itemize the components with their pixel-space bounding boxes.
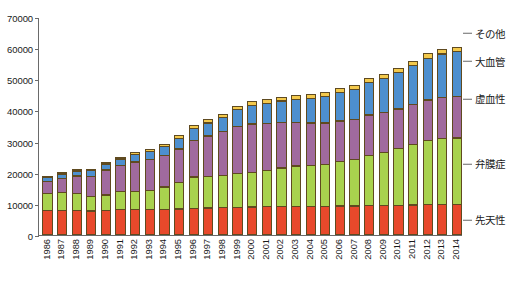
bar-segment [159, 155, 169, 187]
x-axis-tick-label: 2005 [320, 239, 329, 260]
bar-segment [174, 149, 184, 183]
bar-segment [276, 122, 286, 168]
bar-segment [291, 166, 301, 207]
y-axis-tick-mark [35, 49, 39, 50]
y-axis-tick-mark [35, 236, 39, 237]
bar-segment [320, 96, 330, 123]
x-axis-tick-label: 2014 [452, 239, 461, 260]
bar-stack [306, 94, 316, 235]
bar-segment [364, 205, 374, 235]
bar-segment [42, 193, 52, 211]
bar-stack [57, 172, 67, 235]
bar-segment [86, 176, 96, 197]
bar-stack [276, 97, 286, 235]
bar-segment [452, 96, 462, 138]
bar-segment [159, 209, 169, 235]
bar-segment [72, 176, 82, 194]
x-axis-tick-label: 1991 [116, 239, 125, 260]
x-axis-tick-label: 2007 [350, 239, 359, 260]
legend-label: 大血管 [475, 56, 505, 67]
bar-segment [335, 206, 345, 235]
x-axis-tick-label: 2002 [276, 239, 285, 260]
x-axis-tick-label: 1988 [72, 239, 81, 260]
bar-segment [101, 210, 111, 235]
y-axis-tick-mark [35, 18, 39, 19]
bar-segment [408, 104, 418, 145]
bar-segment [379, 152, 389, 206]
y-axis-tick-mark [35, 174, 39, 175]
bar-segment [115, 191, 125, 210]
bar-segment [437, 97, 447, 139]
bar-segment [335, 121, 345, 162]
x-axis-tick-label: 2003 [291, 239, 300, 260]
bar-stack [379, 74, 389, 235]
legend-item: その他 [463, 28, 505, 39]
bar-stack [145, 149, 155, 235]
bar-segment [276, 101, 286, 123]
bar-segment [232, 207, 242, 235]
legend-item: 虚血性 [463, 94, 505, 105]
bar-segment [115, 209, 125, 235]
bar-segment [379, 78, 389, 113]
bar-stack [232, 106, 242, 235]
legend-leader-line [463, 220, 472, 221]
bar-segment [306, 98, 316, 123]
x-axis-tick-label: 2004 [306, 239, 315, 260]
x-axis-tick-label: 2009 [379, 239, 388, 260]
bar-segment [262, 170, 272, 207]
bar-segment [218, 117, 228, 132]
bar-segment [393, 72, 403, 109]
bar-segment [291, 99, 301, 123]
x-axis-tick-label: 2010 [393, 239, 402, 260]
y-axis-tick-mark [35, 80, 39, 81]
bar-stack [423, 53, 433, 235]
bar-stack [72, 169, 82, 235]
bar-segment [247, 172, 257, 207]
bar-segment [364, 115, 374, 156]
bar-stack [86, 169, 96, 235]
bar-segment [349, 206, 359, 235]
bar-segment [57, 192, 67, 211]
bar-segment [174, 138, 184, 149]
bar-segment [393, 109, 403, 149]
bar-segment [437, 204, 447, 235]
x-axis-tick-label: 2013 [437, 239, 446, 260]
x-axis-tick-label: 1987 [57, 239, 66, 260]
x-axis-tick-label: 1996 [189, 239, 198, 260]
bar-stack [437, 49, 447, 235]
legend-leader-line [463, 33, 472, 34]
bar-segment [130, 162, 140, 192]
bar-segment [218, 207, 228, 235]
legend-item: 大血管 [463, 56, 505, 67]
bar-segment [203, 208, 213, 235]
x-axis-tick-label: 2011 [408, 239, 417, 259]
bar-segment [306, 206, 316, 235]
bar-segment [189, 128, 199, 140]
y-axis-tick-mark [35, 205, 39, 206]
bar-segment [291, 122, 301, 166]
bar-segment [452, 138, 462, 205]
bar-segment [335, 161, 345, 206]
bar-segment [423, 140, 433, 205]
legend-label: 虚血性 [475, 94, 505, 105]
bar-segment [437, 54, 447, 98]
bars-container [39, 18, 462, 235]
bar-stack [159, 144, 169, 235]
bar-segment [203, 123, 213, 137]
bar-segment [232, 173, 242, 208]
bar-segment [306, 123, 316, 166]
bar-segment [42, 210, 52, 235]
x-axis-tick-label: 2001 [262, 239, 271, 260]
legend-item: 先天性 [463, 215, 505, 226]
x-axis-tick-label: 2006 [335, 239, 344, 260]
bar-segment [306, 165, 316, 207]
bar-stack [218, 114, 228, 235]
bar-segment [452, 51, 462, 96]
x-axis-tick-label: 1989 [86, 239, 95, 260]
bar-segment [423, 204, 433, 235]
bar-segment [379, 205, 389, 235]
bar-segment [423, 100, 433, 141]
bar-segment [408, 205, 418, 235]
bar-segment [203, 136, 213, 177]
bar-segment [72, 210, 82, 235]
